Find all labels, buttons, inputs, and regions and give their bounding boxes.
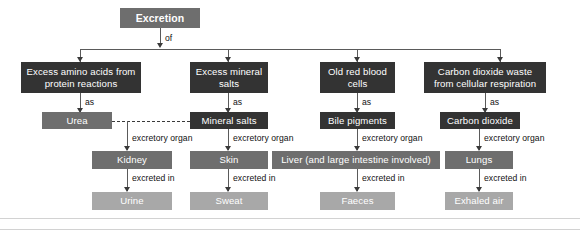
node-label: Urea [66, 115, 87, 126]
node-label: Exhaled air [454, 195, 503, 206]
node-label: Liver (and large intestine involved) [281, 154, 431, 165]
node-label: Kidney [117, 154, 147, 165]
node-waste-4[interactable]: Carbon dioxide waste from cellular respi… [424, 62, 546, 93]
connector-distribution-bar [80, 49, 501, 50]
node-label: Excretion [136, 12, 185, 24]
edge-label-as-1: as [85, 97, 94, 107]
node-organ-2[interactable]: Skin [190, 151, 268, 169]
node-organ-1[interactable]: Kidney [92, 151, 172, 169]
node-label: Mineral salts [201, 115, 256, 126]
node-label: Carbon dioxide [447, 115, 513, 126]
node-output-1[interactable]: Urine [92, 192, 172, 210]
node-label: Bile pigments [328, 115, 387, 126]
node-substance-2[interactable]: Mineral salts [190, 112, 268, 129]
edge-label-as-2: as [233, 97, 242, 107]
node-organ-3[interactable]: Liver (and large intestine involved) [272, 151, 440, 169]
edge-label-excreted-1: excreted in [132, 173, 175, 183]
node-output-2[interactable]: Sweat [190, 192, 268, 210]
node-output-4[interactable]: Exhaled air [445, 192, 513, 210]
edge-label-organ-3: excretory organ [362, 133, 422, 143]
node-output-3[interactable]: Faeces [320, 192, 395, 210]
page-rule-bottom [0, 229, 580, 230]
edge-label-of: of [165, 33, 172, 43]
edge-label-excreted-4: excreted in [484, 173, 527, 183]
page-rule-top [0, 218, 580, 219]
node-label: Excess mineral salts [193, 66, 265, 88]
excretion-flowchart: Excretion of Excess amino acids from pro… [0, 0, 580, 231]
node-waste-3[interactable]: Old red blood cells [320, 62, 395, 93]
node-label: Carbon dioxide waste from cellular respi… [427, 66, 543, 88]
node-label: Faeces [341, 195, 373, 206]
node-label: Skin [219, 154, 238, 165]
node-label: Old red blood cells [323, 66, 392, 88]
edge-label-organ-4: excretory organ [484, 133, 544, 143]
edge-label-organ-2: excretory organ [233, 133, 293, 143]
node-excretion-root[interactable]: Excretion [120, 8, 200, 28]
node-substance-4[interactable]: Carbon dioxide [440, 112, 520, 129]
node-organ-4[interactable]: Lungs [445, 151, 513, 169]
node-label: Sweat [215, 195, 242, 206]
node-substance-1[interactable]: Urea [42, 112, 112, 129]
edge-label-as-4: as [490, 97, 499, 107]
node-label: Excess amino acids from protein reaction… [24, 66, 138, 88]
node-substance-3[interactable]: Bile pigments [320, 112, 395, 129]
node-waste-1[interactable]: Excess amino acids from protein reaction… [21, 62, 141, 93]
edge-label-excreted-2: excreted in [233, 173, 276, 183]
node-label: Urine [120, 195, 143, 206]
connector-dashed-urea-mineral-salts [112, 121, 190, 122]
arrowhead-root-stem [157, 43, 163, 48]
node-label: Lungs [466, 154, 493, 165]
edge-label-excreted-3: excreted in [362, 173, 405, 183]
edge-label-as-3: as [362, 97, 371, 107]
node-waste-2[interactable]: Excess mineral salts [190, 62, 268, 93]
edge-label-organ-1: excretory organ [132, 133, 192, 143]
